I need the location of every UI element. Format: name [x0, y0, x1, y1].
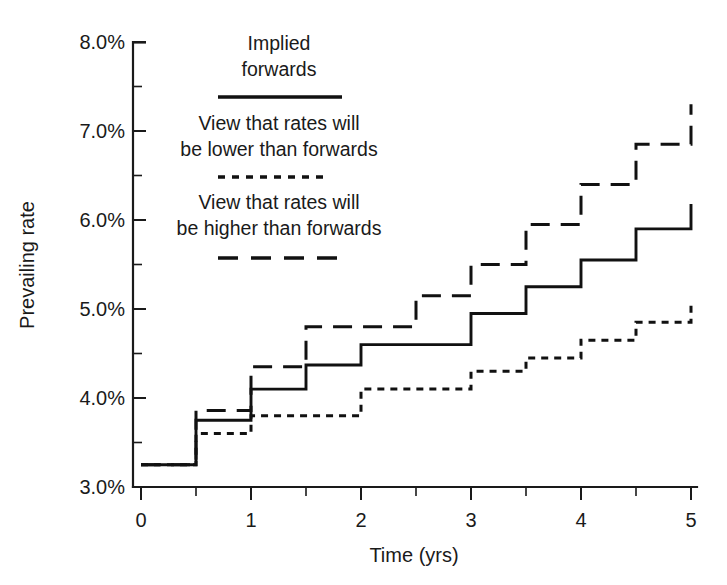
chart-container: 8.0% 7.0% 6.0% 5.0% 4.0% 3.0% 0 1 2 3 4 …	[0, 0, 727, 585]
series-lower-than-forwards	[141, 303, 691, 465]
x-tick-labels-group: 0 1 2 3 4 5	[135, 509, 696, 531]
y-tick-label-4: 4.0%	[79, 387, 125, 409]
y-tick-label-7: 7.0%	[79, 120, 125, 142]
legend-entry-2-line2: be higher than forwards	[177, 217, 382, 239]
y-axis-title: Prevailing rate	[16, 201, 38, 329]
x-tick-label-3: 3	[465, 509, 476, 531]
x-tick-label-1: 1	[245, 509, 256, 531]
x-tick-label-5: 5	[685, 509, 696, 531]
x-axis-title: Time (yrs)	[369, 544, 458, 566]
y-tick-label-3: 3.0%	[79, 476, 125, 498]
y-tick-labels-group: 8.0% 7.0% 6.0% 5.0% 4.0% 3.0%	[79, 31, 125, 498]
x-ticks-group	[141, 487, 691, 500]
step-chart: 8.0% 7.0% 6.0% 5.0% 4.0% 3.0% 0 1 2 3 4 …	[0, 0, 727, 585]
legend-entry-1-line1: View that rates will	[198, 112, 359, 134]
series-implied-forwards	[141, 204, 691, 465]
legend-entry-0-line2: forwards	[242, 58, 317, 80]
y-tick-label-6: 6.0%	[79, 209, 125, 231]
legend: Implied forwards View that rates will be…	[177, 32, 382, 258]
y-tick-label-5: 5.0%	[79, 298, 125, 320]
legend-entry-2-line1: View that rates will	[198, 191, 359, 213]
x-tick-label-0: 0	[135, 509, 146, 531]
x-tick-label-2: 2	[355, 509, 366, 531]
legend-entry-1-line2: be lower than forwards	[180, 138, 378, 160]
y-tick-label-8: 8.0%	[79, 31, 125, 53]
legend-entry-0-line1: Implied	[248, 32, 311, 54]
y-ticks-group	[133, 42, 146, 487]
x-tick-label-4: 4	[575, 509, 586, 531]
